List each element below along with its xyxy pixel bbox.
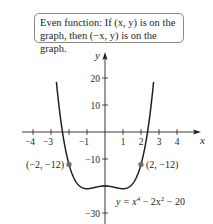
y-tick-label: 10 xyxy=(91,101,101,111)
function-graph: xy−4−3−11234−30−101020 (−2, −12)(2, −12)… xyxy=(0,0,213,224)
x-tick-label: 1 xyxy=(121,137,126,147)
highlighted-point xyxy=(66,162,71,167)
point-label: (−2, −12) xyxy=(26,159,64,171)
x-tick-label: 2 xyxy=(139,137,144,147)
x-tick-label: −3 xyxy=(43,137,53,147)
y-axis-label: y xyxy=(94,49,100,61)
x-tick-label: −1 xyxy=(79,137,89,147)
y-tick-label: −10 xyxy=(85,155,100,165)
point-label: (2, −12) xyxy=(146,159,178,171)
y-tick-label: 20 xyxy=(91,74,101,84)
x-tick-label: 4 xyxy=(175,137,180,147)
y-tick-label: −30 xyxy=(85,209,100,219)
highlighted-point xyxy=(138,162,143,167)
x-tick-label: 3 xyxy=(157,137,162,147)
equation-label: y = x4 − 2x2 − 20 xyxy=(115,195,185,207)
points-group: (−2, −12)(2, −12) xyxy=(26,159,178,171)
x-axis-label: x xyxy=(199,134,205,146)
x-tick-label: −4 xyxy=(25,137,35,147)
